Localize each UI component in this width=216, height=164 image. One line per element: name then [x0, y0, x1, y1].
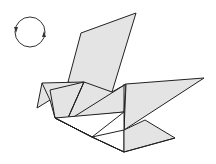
upper-wing [68, 13, 136, 92]
rotate-icon [14, 17, 46, 47]
bird-model [37, 13, 204, 152]
front-wing [124, 78, 204, 130]
origami-diagram [0, 0, 216, 164]
